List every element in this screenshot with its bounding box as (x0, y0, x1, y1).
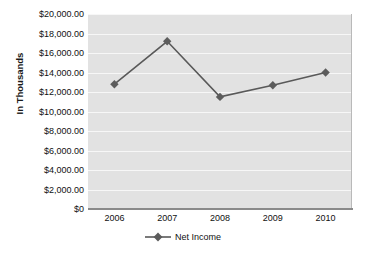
y-axis-tick-label: $6,000.00 (0, 146, 84, 155)
y-axis-tick-label: $4,000.00 (0, 166, 84, 175)
data-point-marker (321, 68, 329, 76)
y-axis-tick-label: $0 (0, 205, 84, 214)
y-axis-tick-labels: $0$2,000.00$4,000.00$6,000.00$8,000.00$1… (0, 14, 84, 209)
x-axis-tick-label: 2007 (137, 213, 197, 223)
y-axis-tick-label: $10,000.00 (0, 107, 84, 116)
y-axis-tick-label: $16,000.00 (0, 49, 84, 58)
x-axis-tick-label: 2006 (84, 213, 144, 223)
y-axis-tick-label: $8,000.00 (0, 127, 84, 136)
y-axis-tick-label: $14,000.00 (0, 68, 84, 77)
chart-legend: Net Income (0, 232, 366, 242)
x-axis-baseline (88, 208, 353, 210)
x-axis-tick-label: 2010 (296, 213, 356, 223)
net-income-line-chart: In Thousands $0$2,000.00$4,000.00$6,000.… (0, 0, 366, 256)
series-line (114, 41, 325, 97)
y-axis-tick-label: $12,000.00 (0, 88, 84, 97)
series-net-income (88, 14, 352, 209)
y-axis-tick-label: $20,000.00 (0, 10, 84, 19)
x-axis-tick-label: 2008 (190, 213, 250, 223)
legend-label-net-income: Net Income (175, 232, 221, 242)
y-axis-tick-label: $18,000.00 (0, 29, 84, 38)
plot-area (88, 14, 352, 209)
legend-marker-icon (145, 232, 171, 242)
x-axis-tick-label: 2009 (243, 213, 303, 223)
x-axis-tick-labels: 20062007200820092010 (88, 213, 352, 229)
data-point-marker (269, 81, 277, 89)
y-axis-tick-label: $2,000.00 (0, 185, 84, 194)
